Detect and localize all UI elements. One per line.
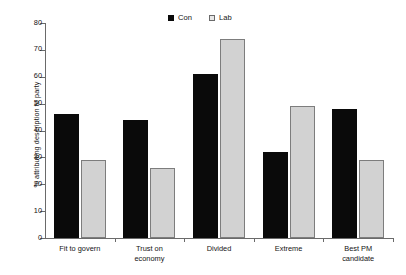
bar-con-4 bbox=[332, 109, 357, 238]
y-tick-label: 60 bbox=[12, 71, 42, 81]
legend-swatch-lab-icon bbox=[209, 15, 215, 21]
x-tick-mark bbox=[115, 238, 116, 242]
legend-entry-lab: Lab bbox=[209, 13, 232, 22]
y-tick-label: 80 bbox=[12, 18, 42, 28]
x-tick-mark bbox=[254, 238, 255, 242]
category-label-line: Trust on bbox=[115, 244, 185, 254]
x-axis-line bbox=[45, 238, 393, 239]
legend-swatch-con-icon bbox=[168, 15, 174, 21]
legend-entry-con: Con bbox=[168, 13, 192, 22]
bar-lab-1 bbox=[150, 168, 175, 238]
x-tick-mark bbox=[393, 238, 394, 242]
bar-con-1 bbox=[123, 120, 148, 238]
category-label-1: Trust oneconomy bbox=[115, 244, 185, 263]
legend-label-con: Con bbox=[178, 13, 192, 22]
x-tick-mark bbox=[184, 238, 185, 242]
bar-lab-0 bbox=[81, 160, 106, 238]
category-label-line: Best PM bbox=[323, 244, 393, 254]
y-tick-label: 20 bbox=[12, 179, 42, 189]
category-label-4: Best PMcandidate bbox=[323, 244, 393, 263]
bar-lab-2 bbox=[220, 39, 245, 238]
plot-area: 01020304050607080 Fit to governTrust one… bbox=[45, 23, 393, 238]
category-label-3: Extreme bbox=[254, 244, 324, 254]
y-tick-label: 10 bbox=[12, 206, 42, 216]
category-label-line: candidate bbox=[323, 254, 393, 264]
category-label-0: Fit to govern bbox=[45, 244, 115, 254]
y-tick-label: 30 bbox=[12, 152, 42, 162]
y-axis-line bbox=[45, 23, 46, 238]
bar-lab-3 bbox=[290, 106, 315, 238]
category-label-line: Divided bbox=[184, 244, 254, 254]
category-label-2: Divided bbox=[184, 244, 254, 254]
y-tick-label: 50 bbox=[12, 98, 42, 108]
y-tick-label: 40 bbox=[12, 125, 42, 135]
bar-lab-4 bbox=[359, 160, 384, 238]
y-tick-label: 70 bbox=[12, 44, 42, 54]
bar-con-2 bbox=[193, 74, 218, 238]
legend-label-lab: Lab bbox=[219, 13, 232, 22]
x-tick-mark bbox=[323, 238, 324, 242]
y-tick-label: 0 bbox=[12, 233, 42, 243]
bar-chart: % attributing description to party Con L… bbox=[0, 0, 406, 275]
chart-legend: Con Lab bbox=[168, 13, 232, 22]
bar-con-0 bbox=[54, 114, 79, 238]
category-label-line: Fit to govern bbox=[45, 244, 115, 254]
bar-con-3 bbox=[263, 152, 288, 238]
category-label-line: Extreme bbox=[254, 244, 324, 254]
category-label-line: economy bbox=[115, 254, 185, 264]
